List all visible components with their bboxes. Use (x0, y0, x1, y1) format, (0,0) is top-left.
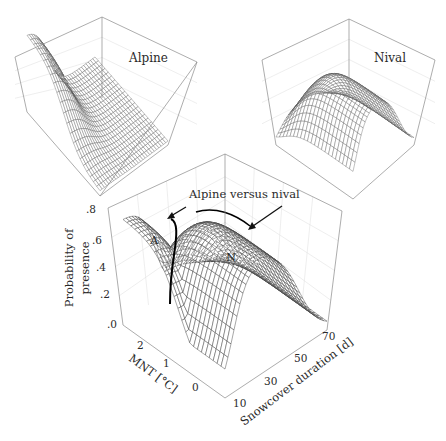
z-tick: .2 (100, 288, 110, 300)
nival-panel: Nival (262, 19, 435, 199)
z-axis-label: Probability of presence (62, 228, 92, 307)
nival-surface (276, 73, 414, 171)
z-tick: .4 (96, 261, 106, 273)
region-label-nival: N (226, 250, 236, 264)
annotation-label: Alpine versus nival (188, 187, 300, 201)
combined-panel: .8 .6 .4 .2 .0 Probability of presence 2… (62, 154, 356, 428)
alpine-panel: Alpine (15, 17, 197, 196)
z-tick: .6 (92, 234, 102, 246)
region-label-alpine: A (149, 233, 159, 247)
x-tick: 2 (137, 339, 144, 351)
figure: Alpine Nival .8 .6 .4 .2 .0 (0, 0, 446, 441)
y-tick: 10 (233, 397, 246, 409)
y-axis-label: Snowcover duration [d] (237, 334, 355, 428)
nival-title: Nival (374, 51, 406, 65)
z-tick: .8 (86, 203, 96, 215)
z-axis-label-line2: presence (78, 241, 92, 294)
x-tick: 0 (192, 381, 199, 393)
x-axis-label: MNT [°C] (126, 351, 180, 396)
z-tick: .0 (107, 318, 117, 330)
alpine-title: Alpine (128, 51, 168, 65)
x-tick: 1 (163, 357, 170, 369)
y-tick: 50 (294, 352, 307, 364)
y-tick: 70 (322, 330, 335, 342)
z-axis-label-line1: Probability of (62, 228, 76, 307)
y-tick: 30 (264, 375, 277, 387)
